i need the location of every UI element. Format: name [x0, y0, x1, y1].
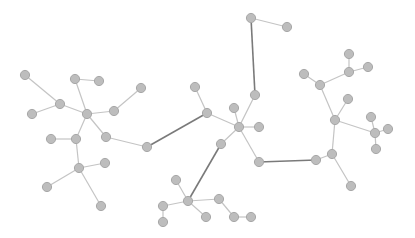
graph-edge: [188, 144, 221, 201]
graph-node[interactable]: [214, 194, 223, 203]
graph-node[interactable]: [202, 108, 211, 117]
graph-edge: [47, 168, 79, 187]
graph-edge: [106, 137, 147, 147]
graph-node[interactable]: [42, 182, 51, 191]
graph-node[interactable]: [330, 115, 339, 124]
graph-node[interactable]: [315, 80, 324, 89]
graph-node[interactable]: [82, 109, 91, 118]
graph-node[interactable]: [282, 22, 291, 31]
graph-node[interactable]: [383, 124, 392, 133]
graph-edge: [207, 113, 239, 127]
graph-node[interactable]: [363, 62, 372, 71]
graph-node[interactable]: [246, 13, 255, 22]
graph-node[interactable]: [254, 157, 263, 166]
graph-node[interactable]: [171, 175, 180, 184]
graph-edge: [332, 120, 335, 154]
graph-edge: [239, 127, 259, 162]
graph-node[interactable]: [27, 109, 36, 118]
graph-node[interactable]: [250, 90, 259, 99]
graph-node[interactable]: [101, 132, 110, 141]
graph-node[interactable]: [136, 83, 145, 92]
graph-edge: [259, 160, 316, 162]
graph-node[interactable]: [74, 163, 83, 172]
graph-node[interactable]: [311, 155, 320, 164]
graph-node[interactable]: [366, 112, 375, 121]
graph-edge: [335, 120, 375, 133]
graph-node[interactable]: [100, 158, 109, 167]
graph-node[interactable]: [55, 99, 64, 108]
graph-node[interactable]: [344, 49, 353, 58]
graph-node[interactable]: [344, 67, 353, 76]
graph-edge: [114, 88, 141, 111]
graph-node[interactable]: [234, 122, 243, 131]
graph-node[interactable]: [201, 212, 210, 221]
graph-node[interactable]: [246, 212, 255, 221]
graph-node[interactable]: [371, 144, 380, 153]
graph-edge: [79, 168, 101, 206]
graph-node[interactable]: [229, 103, 238, 112]
network-graph: [0, 0, 415, 238]
graph-node[interactable]: [229, 212, 238, 221]
graph-node[interactable]: [327, 149, 336, 158]
graph-node[interactable]: [109, 106, 118, 115]
graph-node[interactable]: [158, 217, 167, 226]
graph-node[interactable]: [20, 70, 29, 79]
graph-node[interactable]: [343, 94, 352, 103]
graph-node[interactable]: [70, 74, 79, 83]
graph-node[interactable]: [94, 76, 103, 85]
graph-nodes: [20, 13, 392, 226]
graph-node[interactable]: [142, 142, 151, 151]
graph-node[interactable]: [370, 128, 379, 137]
graph-edge: [75, 79, 87, 114]
graph-edge: [320, 85, 335, 120]
graph-node[interactable]: [71, 134, 80, 143]
graph-edge: [332, 154, 351, 186]
graph-node[interactable]: [254, 122, 263, 131]
graph-edge: [147, 113, 207, 147]
graph-node[interactable]: [158, 201, 167, 210]
graph-edge: [251, 18, 255, 95]
graph-node[interactable]: [183, 196, 192, 205]
graph-node[interactable]: [190, 82, 199, 91]
graph-edge: [25, 75, 60, 104]
graph-edge: [251, 18, 287, 27]
graph-node[interactable]: [46, 134, 55, 143]
graph-node[interactable]: [96, 201, 105, 210]
graph-node[interactable]: [216, 139, 225, 148]
graph-edge: [239, 95, 255, 127]
graph-node[interactable]: [299, 69, 308, 78]
graph-node[interactable]: [346, 181, 355, 190]
